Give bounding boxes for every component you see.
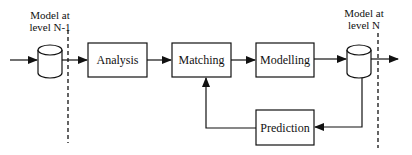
- right-model-label-line1: Model at: [344, 7, 383, 19]
- left-model-label-line1: Model at: [30, 9, 69, 21]
- matching-label: Matching: [179, 53, 225, 67]
- model-to-prediction-arrow: [315, 78, 362, 127]
- analysis-box: Analysis: [88, 43, 147, 77]
- right-model-label: Model at level N: [344, 7, 383, 31]
- prediction-box: Prediction: [256, 110, 314, 145]
- prediction-to-matching-arrow: [206, 78, 256, 128]
- right-model-cylinder-icon: [347, 45, 371, 78]
- left-model-cylinder-icon: [38, 45, 62, 78]
- left-model-label-line2: level N-1: [29, 21, 70, 33]
- matching-box: Matching: [172, 43, 231, 77]
- prediction-label: Prediction: [260, 121, 309, 135]
- analysis-label: Analysis: [97, 53, 139, 67]
- modelling-label: Modelling: [260, 53, 310, 67]
- right-model-label-line2: level N: [348, 19, 380, 31]
- left-model-label: Model at level N-1: [29, 9, 70, 33]
- pipeline-diagram: Model at level N-1 Model at level N Anal…: [0, 0, 412, 155]
- modelling-box: Modelling: [256, 43, 314, 77]
